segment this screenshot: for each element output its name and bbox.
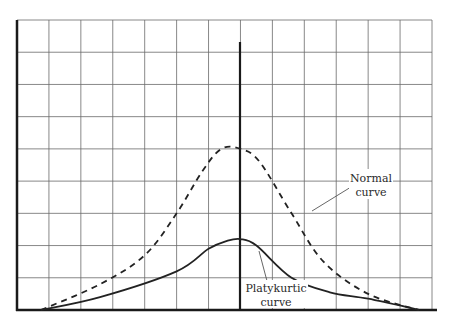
normal-label-line1: Normal (350, 172, 392, 185)
grid-lines (17, 20, 432, 310)
platy-label-line2: curve (260, 296, 291, 309)
normal-leader-line (312, 187, 351, 211)
platy-label-line1: Platykurtic (245, 282, 306, 295)
platykurtic-curve (41, 239, 419, 310)
kurtosis-chart: Normal curve Platykurtic curve (0, 0, 451, 327)
normal-label-line2: curve (355, 186, 386, 199)
